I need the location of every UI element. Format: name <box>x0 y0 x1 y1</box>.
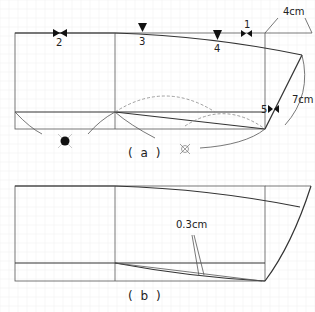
dim-label-7cm: 7cm <box>292 94 314 105</box>
figure-a-arc-right <box>200 129 265 148</box>
marker-1-label: 1 <box>244 19 250 30</box>
pattern-diagram: 4cm 7cm 2 3 4 1 <box>0 0 315 312</box>
figure-a-slanted-side <box>265 55 302 129</box>
marker-3-label: 3 <box>139 36 145 47</box>
figure-a: 4cm 7cm 2 3 4 1 <box>15 6 314 160</box>
crossed-box-symbol <box>180 144 190 154</box>
marker-5-label: 5 <box>261 104 267 115</box>
filled-circle-cross-symbol <box>58 134 72 148</box>
figure-b-frame <box>15 186 265 281</box>
figure-a-caption: ( a ) <box>128 146 162 160</box>
marker-2-label: 2 <box>56 37 62 48</box>
figure-a-arc-left <box>15 112 42 134</box>
figure-b-caption: ( b ) <box>128 289 163 303</box>
figure-b: 0.3cm ( b ) <box>15 186 311 303</box>
dim-label-4cm: 4cm <box>283 6 305 17</box>
figure-a-diagonal-line <box>115 112 265 129</box>
figure-a-dashed-arc-1 <box>115 96 215 112</box>
dim-label-0-3cm: 0.3cm <box>176 219 207 230</box>
marker-4-label: 4 <box>214 43 220 54</box>
marker-1: 1 <box>241 19 252 37</box>
marker-3: 3 <box>138 23 147 47</box>
figure-b-diagonal-line-2 <box>115 263 262 281</box>
figure-a-dim-bracket-left <box>265 18 278 33</box>
